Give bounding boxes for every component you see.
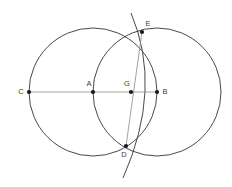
label-d: D (121, 150, 127, 159)
label-c: C (18, 87, 24, 96)
point-d (124, 144, 128, 148)
label-g: G (124, 79, 130, 88)
geometry-figure: C A G B E D (0, 0, 232, 187)
label-a: A (86, 79, 91, 88)
point-a (91, 90, 95, 94)
label-e: E (145, 19, 150, 28)
point-c (27, 90, 31, 94)
geometry-canvas: C A G B E D (0, 0, 232, 187)
point-g (129, 90, 133, 94)
point-e (140, 30, 144, 34)
point-b (155, 90, 159, 94)
label-b: B (162, 87, 167, 96)
